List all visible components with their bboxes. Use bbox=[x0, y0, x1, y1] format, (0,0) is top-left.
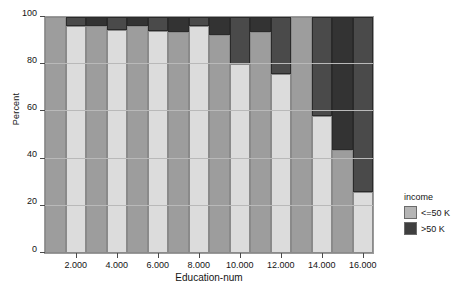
x-tick-label: 6.000 bbox=[146, 261, 169, 270]
bar-segment-low bbox=[353, 192, 374, 253]
x-tick bbox=[117, 253, 118, 258]
y-tick bbox=[40, 205, 45, 206]
chart-root: Percent 020406080100 2.0004.0006.0008.00… bbox=[0, 0, 467, 292]
x-tick-label: 2.000 bbox=[64, 261, 87, 270]
legend-swatch bbox=[404, 206, 417, 219]
bar-8 bbox=[189, 17, 210, 253]
legend-entries: <=50 K>50 K bbox=[404, 206, 466, 235]
bar-segment-high bbox=[189, 17, 210, 26]
x-tick-label: 4.000 bbox=[105, 261, 128, 270]
bar-15 bbox=[332, 17, 353, 253]
bar-14 bbox=[312, 17, 333, 253]
bar-5 bbox=[127, 17, 148, 253]
bar-segment-high bbox=[209, 17, 230, 35]
bar-segment-high bbox=[107, 17, 128, 30]
x-tick-label: 16.000 bbox=[349, 261, 377, 270]
bar-segment-low bbox=[250, 32, 271, 253]
bar-group bbox=[45, 17, 373, 253]
legend-item: <=50 K bbox=[404, 206, 466, 219]
bar-segment-high bbox=[250, 17, 271, 32]
gridline bbox=[45, 158, 373, 159]
bar-segment-low bbox=[312, 116, 333, 253]
x-tick-label: 14.000 bbox=[308, 261, 336, 270]
bar-6 bbox=[148, 17, 169, 253]
legend-item: >50 K bbox=[404, 222, 466, 235]
bar-segment-high bbox=[148, 17, 169, 31]
bar-segment-high bbox=[353, 17, 374, 192]
x-tick bbox=[240, 253, 241, 258]
legend-title: income bbox=[404, 192, 466, 202]
bar-9 bbox=[209, 17, 230, 253]
bar-segment-low bbox=[271, 74, 292, 253]
y-tick-label: 0 bbox=[32, 244, 37, 253]
legend: income <=50 K>50 K bbox=[404, 192, 466, 238]
x-tick bbox=[322, 253, 323, 258]
bar-segment-high bbox=[127, 17, 148, 26]
x-tick-label: 10.000 bbox=[226, 261, 254, 270]
legend-label: >50 K bbox=[421, 224, 445, 234]
bar-2 bbox=[66, 17, 87, 253]
x-tick bbox=[158, 253, 159, 258]
bar-segment-low bbox=[66, 26, 87, 253]
x-tick-label: 8.000 bbox=[187, 261, 210, 270]
bar-segment-low bbox=[86, 26, 107, 253]
bar-segment-low bbox=[291, 17, 312, 253]
x-tick bbox=[281, 253, 282, 258]
bar-segment-low bbox=[168, 32, 189, 253]
bar-1 bbox=[45, 17, 66, 253]
y-tick-label: 60 bbox=[27, 102, 37, 111]
bar-segment-low bbox=[209, 35, 230, 253]
x-axis-title: Education-num bbox=[44, 272, 374, 283]
y-tick-label: 40 bbox=[27, 150, 37, 159]
gridline bbox=[45, 205, 373, 206]
bar-3 bbox=[86, 17, 107, 253]
x-tick bbox=[199, 253, 200, 258]
bar-10 bbox=[230, 17, 251, 253]
bar-segment-high bbox=[168, 17, 189, 32]
legend-swatch bbox=[404, 222, 417, 235]
legend-label: <=50 K bbox=[421, 208, 450, 218]
bar-segment-high bbox=[332, 17, 353, 150]
bar-segment-low bbox=[189, 26, 210, 253]
bar-segment-high bbox=[86, 17, 107, 26]
bar-4 bbox=[107, 17, 128, 253]
y-tick bbox=[40, 16, 45, 17]
y-tick-label: 20 bbox=[27, 197, 37, 206]
y-tick bbox=[40, 110, 45, 111]
bar-segment-high bbox=[312, 17, 333, 116]
bar-segment-low bbox=[148, 31, 169, 253]
y-tick-label: 80 bbox=[27, 55, 37, 64]
y-tick bbox=[40, 252, 45, 253]
bar-segment-low bbox=[127, 26, 148, 253]
plot-area: 020406080100 2.0004.0006.0008.00010.0001… bbox=[44, 16, 374, 254]
bar-7 bbox=[168, 17, 189, 253]
gridline bbox=[45, 63, 373, 64]
bar-segment-high bbox=[66, 17, 87, 26]
gridline bbox=[45, 110, 373, 111]
bar-segment-high bbox=[271, 17, 292, 74]
bar-16 bbox=[353, 17, 374, 253]
x-tick bbox=[76, 253, 77, 258]
bar-segment-high bbox=[230, 17, 251, 64]
x-tick-label: 12.000 bbox=[267, 261, 295, 270]
bar-segment-low bbox=[45, 17, 66, 253]
y-tick bbox=[40, 158, 45, 159]
bar-segment-low bbox=[332, 150, 353, 253]
y-axis-title: Percent bbox=[11, 69, 21, 149]
x-tick bbox=[363, 253, 364, 258]
bar-11 bbox=[250, 17, 271, 253]
bar-12 bbox=[271, 17, 292, 253]
bar-13 bbox=[291, 17, 312, 253]
y-tick bbox=[40, 63, 45, 64]
y-tick-label: 100 bbox=[22, 8, 37, 17]
